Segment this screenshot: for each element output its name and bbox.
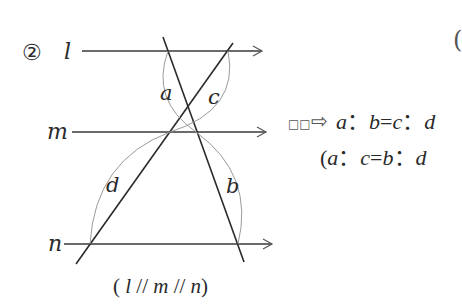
segment-label-d: d [106, 173, 119, 197]
ratio2-colon-2: ： [394, 145, 416, 170]
ratio1-b: b [369, 109, 380, 134]
ratio1-colon-2: ： [402, 109, 424, 134]
transversal-falling [163, 37, 244, 262]
parallel-caption: ( l // m // n) [113, 276, 208, 297]
problem-number: ② [22, 40, 42, 65]
ratio2-colon-1: ： [338, 145, 360, 170]
transversal-rising [76, 43, 233, 264]
caption-close-paren: ) [201, 274, 208, 298]
line-label-n: n [48, 231, 62, 256]
implies-indicator: □□⇨ [288, 111, 327, 131]
line-label-m: m [47, 119, 68, 144]
ratio2-c: c [360, 145, 370, 170]
caption-parallel-2: // [168, 274, 190, 298]
caption-parallel-1: // [131, 274, 153, 298]
ratio1-c: c [392, 109, 402, 134]
segment-label-b: b [226, 174, 239, 198]
line-label-l: l [64, 39, 71, 64]
ratio2-equals: = [370, 145, 382, 170]
clipped-paren: ( [453, 28, 462, 52]
proportion-line-2: (a：c=b：d [320, 147, 427, 169]
proportion-line-1: a：b=c：d [336, 111, 435, 133]
ratio1-colon-1: ： [347, 109, 369, 134]
diagram-stage: ② l m n a c d b [0, 0, 462, 304]
ratio2-a: a [327, 145, 338, 170]
right-arrow-icon: ⇨ [311, 109, 328, 133]
caption-open-paren: ( [113, 274, 120, 298]
caption-n: n [191, 274, 202, 298]
caption-m: m [153, 274, 168, 298]
ratio2-d: d [416, 145, 427, 170]
ratio1-equals: = [380, 109, 392, 134]
tofu-glyphs: □□ [288, 117, 311, 131]
segment-label-a: a [160, 81, 173, 105]
ratio2-b: b [383, 145, 394, 170]
ratio1-a: a [336, 109, 347, 134]
segment-label-c: c [208, 85, 220, 109]
ratio1-d: d [424, 109, 435, 134]
